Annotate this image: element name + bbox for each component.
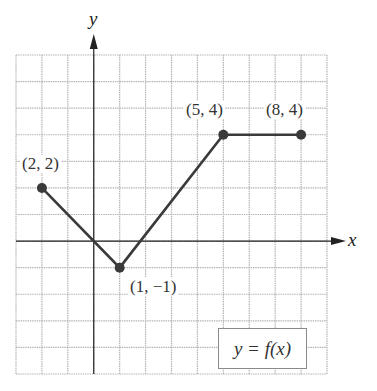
graph-canvas (0, 0, 377, 391)
point-label-1-neg1: (1, −1) (128, 278, 178, 296)
function-label-box: y = f(x) (218, 328, 307, 369)
point-label-2-2: (2, 2) (20, 155, 61, 173)
x-axis-label: x (348, 229, 356, 251)
point-label-5-4: (5, 4) (184, 101, 225, 119)
axes (16, 34, 346, 374)
function-label: y = f(x) (234, 338, 291, 360)
point-label-8-4: (8, 4) (264, 101, 305, 119)
y-axis-label: y (89, 8, 97, 30)
